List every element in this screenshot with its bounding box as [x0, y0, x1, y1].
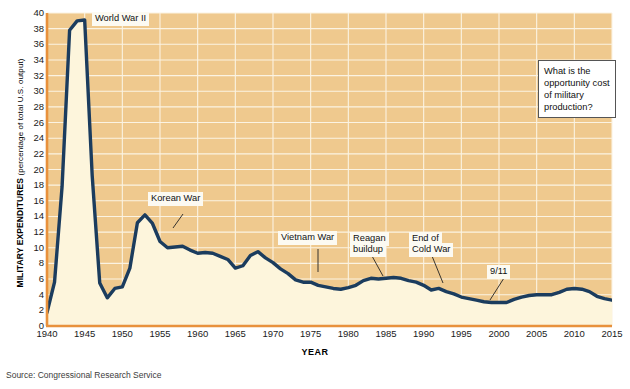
x-axis-tick-label: 1975 [300, 329, 321, 339]
x-axis-tick-label: 1980 [338, 329, 359, 339]
x-axis-tick-label: 1970 [262, 329, 283, 339]
chart-figure: MILITARY EXPENDITURES (percentage of tot… [0, 0, 630, 389]
x-axis-title: YEAR [0, 347, 630, 357]
x-axis-tick-label: 2015 [601, 329, 622, 339]
x-axis-tick-label: 1960 [187, 329, 208, 339]
annotation-world-war-2: World War II [92, 12, 149, 26]
x-axis-tick-label: 2010 [564, 329, 585, 339]
x-axis-tick-label: 1965 [225, 329, 246, 339]
x-axis-tick-label: 1990 [413, 329, 434, 339]
x-axis-tick-label: 1950 [112, 329, 133, 339]
x-axis-tick-label: 2005 [526, 329, 547, 339]
x-axis-tick-label: 2000 [488, 329, 509, 339]
annotation-nine-eleven: 9/11 [487, 265, 510, 279]
source-note: Source: Congressional Research Service [6, 370, 161, 380]
x-axis-tick-label: 1985 [375, 329, 396, 339]
x-axis-tick-label: 1955 [149, 329, 170, 339]
annotation-vietnam-war: Vietnam War [278, 231, 337, 245]
x-axis-tick-label: 1940 [36, 329, 57, 339]
x-axis-tick-labels: 1940194519501955196019651970197519801985… [0, 329, 630, 345]
annotation-reagan-buildup-line2: buildup [350, 243, 386, 257]
x-axis-tick-label: 1945 [74, 329, 95, 339]
annotation-end-cold-war-line2: Cold War [409, 243, 453, 257]
x-axis-tick-label: 1995 [451, 329, 472, 339]
callout-box: What is the opportunity cost of military… [538, 60, 616, 118]
annotation-korean-war: Korean War [148, 192, 203, 206]
